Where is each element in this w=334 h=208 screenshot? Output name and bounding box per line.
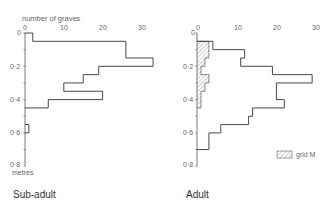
left-ytick-0.6: 0·6 — [10, 129, 20, 136]
right-ytick-0.4: 0·4 — [183, 96, 193, 103]
right-ytick-0: 0 — [191, 29, 195, 36]
right-xtick-10: 10 — [234, 24, 242, 31]
right-xtick-0: 0 — [196, 24, 200, 31]
left-ytick-0.8: 0·8 — [10, 161, 20, 168]
right-xtick-30: 30 — [312, 24, 320, 31]
sub-adult-step-outline — [25, 33, 153, 133]
adult-step-outline — [197, 41, 312, 149]
legend-hatch-swatch — [277, 151, 292, 158]
adult-caption: Adult — [186, 189, 209, 200]
left-xtick-0: 0 — [23, 24, 27, 31]
right-ytick-0.8: 0·8 — [183, 161, 193, 168]
left-ytick-0.2: 0·2 — [10, 63, 20, 70]
right-ytick-0.6: 0·6 — [183, 129, 193, 136]
legend-label: grid M — [296, 151, 315, 158]
grid-m-hatched-area — [197, 41, 209, 108]
left-ytick-0: 0 — [17, 29, 21, 36]
x-axis-title: number of graves — [22, 14, 80, 23]
right-xtick-20: 20 — [273, 24, 281, 31]
left-xtick-30: 30 — [138, 24, 146, 31]
left-xtick-10: 10 — [60, 24, 68, 31]
left-xtick-20: 20 — [99, 24, 107, 31]
chart-canvas — [0, 0, 334, 208]
adult-histogram — [196, 33, 313, 166]
right-ytick-0.2: 0·2 — [183, 63, 193, 70]
left-ytick-0.4: 0·4 — [10, 96, 20, 103]
sub-adult-histogram — [24, 33, 154, 166]
y-axis-units: metres — [12, 169, 33, 176]
sub-adult-caption: Sub-adult — [13, 189, 56, 200]
